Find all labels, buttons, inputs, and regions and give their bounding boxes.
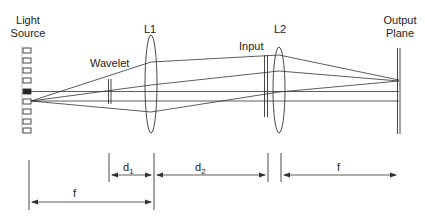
dimension-lines <box>32 175 396 202</box>
output-plane-label-line2: Plane <box>380 27 420 40</box>
dimension-d1-label: d1 <box>123 161 134 175</box>
input-plane <box>265 55 268 117</box>
output-plane-label-line1: Output <box>380 14 420 27</box>
output-plane <box>398 48 401 134</box>
light-source-label-line1: Light <box>8 14 48 27</box>
wavelet-label: Wavelet <box>90 57 129 70</box>
dimension-arrowheads <box>31 173 397 205</box>
d1-subscript: 1 <box>129 167 133 176</box>
dimension-extension-lines <box>29 153 281 210</box>
dimension-d2-label: d2 <box>195 161 206 175</box>
optical-setup-diagram <box>0 0 425 223</box>
dimension-f-left-label: f <box>73 187 76 200</box>
d2-subscript: 2 <box>201 167 205 176</box>
lens-l2 <box>273 47 285 133</box>
lens-l2-label: L2 <box>274 23 286 36</box>
output-plane-label: Output Plane <box>380 14 420 40</box>
light-source-label-line2: Source <box>8 27 48 40</box>
input-label: Input <box>239 40 263 53</box>
light-rays <box>31 55 399 112</box>
lens-l1 <box>145 35 157 133</box>
light-source-array <box>22 46 31 133</box>
light-source-label: Light Source <box>8 14 48 40</box>
dimension-f-right-label: f <box>337 161 340 174</box>
lens-l1-label: L1 <box>144 23 156 36</box>
